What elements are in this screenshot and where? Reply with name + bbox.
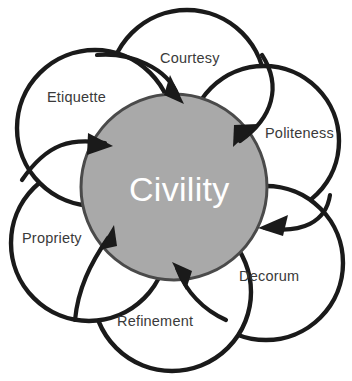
petal-label-propriety: Propriety <box>22 231 82 246</box>
petal-label-etiquette: Etiquette <box>47 90 106 105</box>
petal-label-courtesy: Courtesy <box>160 51 220 66</box>
petal-label-politeness: Politeness <box>265 126 334 141</box>
petal-label-decorum: Decorum <box>239 269 299 284</box>
civility-diagram: Courtesy Politeness Decorum Refinement P… <box>0 0 352 381</box>
petal-label-refinement: Refinement <box>117 314 193 329</box>
core-label-civility: Civility <box>129 172 230 206</box>
